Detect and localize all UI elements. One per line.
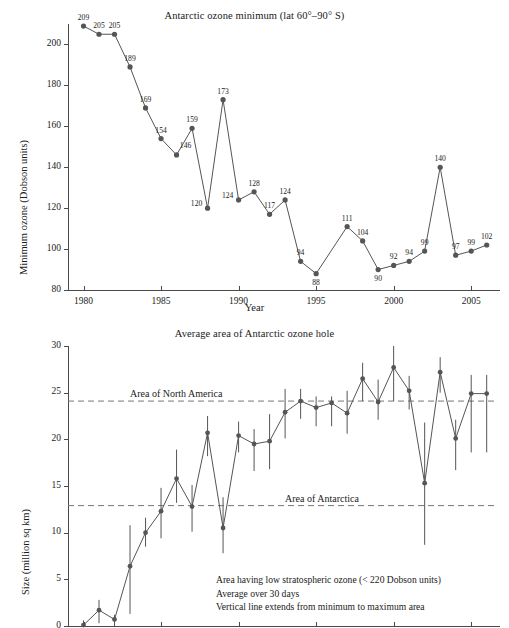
x-tick <box>316 622 317 626</box>
x-tick <box>471 286 472 290</box>
data-point-label: 120 <box>186 199 208 208</box>
x-tick <box>239 286 240 290</box>
data-point-label: 140 <box>429 154 451 163</box>
data-point-label: 146 <box>175 141 197 150</box>
y-tick-label: 200 <box>28 38 61 48</box>
x-tick <box>161 286 162 290</box>
x-tick-label: 1990 <box>214 296 264 306</box>
x-tick-label: 2000 <box>369 296 419 306</box>
y-tick <box>64 393 68 394</box>
y-tick <box>64 85 68 86</box>
y-tick-label: 15 <box>28 480 61 490</box>
reference-line-label-antarctica: Area of Antarctica <box>283 493 361 504</box>
x-tick-label: 1985 <box>136 296 186 306</box>
x-tick <box>161 622 162 626</box>
x-tick-label: 1980 <box>59 296 109 306</box>
data-point-label: 99 <box>414 238 436 247</box>
data-point-label: 90 <box>367 274 389 283</box>
y-tick-label: 25 <box>28 386 61 396</box>
x-tick <box>84 622 85 626</box>
data-point-label: 94 <box>290 248 312 257</box>
data-point-label: 154 <box>150 126 172 135</box>
data-point-label: 205 <box>104 21 126 30</box>
y-tick-label: 80 <box>28 284 61 294</box>
data-point-label: 117 <box>259 201 281 210</box>
x-tick <box>471 622 472 626</box>
y-tick <box>64 167 68 168</box>
y-tick <box>64 626 68 627</box>
x-tick <box>394 286 395 290</box>
y-tick <box>64 208 68 209</box>
y-tick <box>64 44 68 45</box>
y-tick <box>64 439 68 440</box>
y-tick <box>64 346 68 347</box>
y-tick-label: 10 <box>28 526 61 536</box>
data-point-label: 94 <box>398 248 420 257</box>
y-tick <box>64 126 68 127</box>
x-tick <box>394 622 395 626</box>
y-tick <box>64 249 68 250</box>
y-tick <box>64 533 68 534</box>
data-point-label: 128 <box>243 179 265 188</box>
y-tick <box>64 579 68 580</box>
x-tick-label: 2005 <box>446 296 496 306</box>
reference-line-label-north-america: Area of North America <box>128 388 224 399</box>
x-tick-label: 1995 <box>291 296 341 306</box>
y-tick-label: 160 <box>28 120 61 130</box>
chart-panel-ozone-minimum: Antarctic ozone minimum (lat 60°–90° S) … <box>0 0 509 320</box>
data-point-label: 159 <box>181 115 203 124</box>
plot-area-ozone-minimum: 2092052051891691541461591201731241281171… <box>0 0 509 320</box>
caption-line-vertical-range: Vertical line extends from minimum to ma… <box>216 600 425 613</box>
data-point-label: 111 <box>336 214 358 223</box>
x-tick <box>84 286 85 290</box>
caption-line-average: Average over 30 days <box>216 587 299 600</box>
y-tick-label: 0 <box>28 620 61 628</box>
y-tick-label: 140 <box>28 161 61 171</box>
x-tick <box>316 286 317 290</box>
y-tick-label: 120 <box>28 202 61 212</box>
figure-page: Antarctic ozone minimum (lat 60°–90° S) … <box>0 0 509 628</box>
data-point-label: 189 <box>119 54 141 63</box>
x-tick <box>239 622 240 626</box>
chart-panel-ozone-hole-area: Average area of Antarctic ozone hole Siz… <box>0 320 509 628</box>
caption-line-threshold: Area having low stratospheric ozone (< 2… <box>216 573 441 586</box>
y-tick <box>64 290 68 291</box>
y-tick-label: 5 <box>28 573 61 583</box>
data-point-label: 169 <box>135 95 157 104</box>
data-point-label: 102 <box>476 232 498 241</box>
data-point-label: 104 <box>352 228 374 237</box>
y-tick-label: 180 <box>28 79 61 89</box>
data-point-label: 124 <box>274 187 296 196</box>
y-tick-label: 100 <box>28 243 61 253</box>
data-point-label: 124 <box>217 191 239 200</box>
y-tick <box>64 486 68 487</box>
y-tick-label: 30 <box>28 340 61 350</box>
y-tick-label: 20 <box>28 433 61 443</box>
data-point-label: 173 <box>212 87 234 96</box>
